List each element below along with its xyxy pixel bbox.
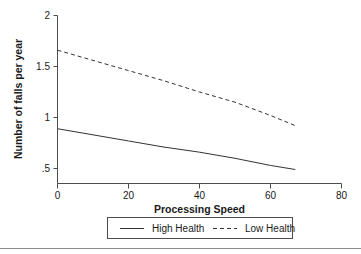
x-tick-label-2: 40	[194, 190, 206, 201]
y-tick-label-3: 2	[44, 10, 50, 21]
y-tick-label-1: 1	[44, 112, 50, 123]
x-tick-label-1: 20	[123, 190, 135, 201]
series-line-high-health	[58, 129, 296, 170]
y-tick-label-0: .5	[42, 163, 51, 174]
y-tick-label-2: 1.5	[36, 61, 50, 72]
x-tick-label-3: 60	[265, 190, 277, 201]
x-axis-title: Processing Speed	[154, 203, 245, 215]
legend-label-high-health: High Health	[152, 223, 204, 234]
x-tick-label-0: 0	[55, 190, 61, 201]
chart-figure: .5 1 1.5 2 0 20 40 60 80 Processing Spee…	[0, 0, 361, 254]
series-line-low-health	[58, 50, 296, 125]
chart-canvas: .5 1 1.5 2 0 20 40 60 80 Processing Spee…	[0, 0, 361, 254]
x-tick-label-4: 80	[336, 190, 348, 201]
y-axis-title: Number of falls per year	[12, 39, 24, 159]
legend-label-low-health: Low Health	[245, 223, 295, 234]
